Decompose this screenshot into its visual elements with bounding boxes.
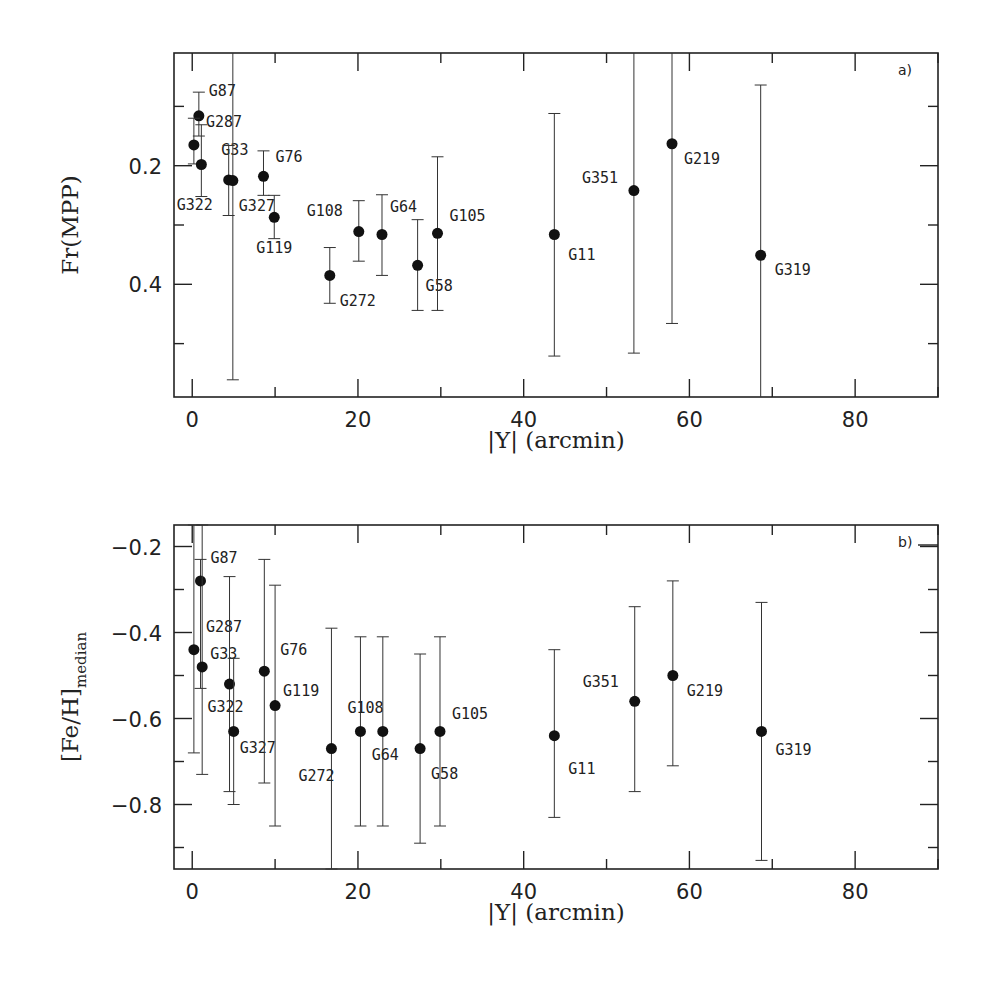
marker <box>376 229 387 240</box>
point-label: G219 <box>684 150 720 168</box>
panel-label: b) <box>898 534 912 550</box>
data-point-g272: G272 <box>298 628 337 869</box>
point-label: G58 <box>431 765 458 783</box>
y-tick-label: −0.6 <box>111 708 162 732</box>
point-label: G272 <box>340 292 376 310</box>
marker <box>549 229 560 240</box>
marker <box>324 270 335 281</box>
point-label: G11 <box>568 246 595 264</box>
point-label: G119 <box>283 682 319 700</box>
panel-b-feh-median: 020406080−0.2−0.4−0.6−0.8|Y| (arcmin)[Fe… <box>57 525 938 926</box>
marker <box>228 726 239 737</box>
point-label: G64 <box>372 746 399 764</box>
data-point-g64: G64 <box>376 195 417 276</box>
point-label: G322 <box>177 196 213 214</box>
marker <box>193 110 204 121</box>
marker <box>756 726 767 737</box>
marker <box>196 159 207 170</box>
x-tick-label: 20 <box>345 880 372 904</box>
y-axis-label-subscript: median <box>72 632 90 688</box>
data-point-g108: G108 <box>307 201 365 261</box>
point-label: G87 <box>209 82 236 100</box>
point-label: G287 <box>206 113 242 131</box>
panel-label: a) <box>898 62 912 78</box>
x-axis-label: |Y| (arcmin) <box>487 427 625 454</box>
x-tick-label: 0 <box>186 408 199 432</box>
point-label: G319 <box>775 261 811 279</box>
point-label: G108 <box>347 699 383 717</box>
point-label: G322 <box>208 698 244 716</box>
data-point-g76: G76 <box>257 148 302 195</box>
panel-a-fr-mpp: 0204060800.20.4|Y| (arcmin)Fr(MPP)a)G87G… <box>57 53 938 454</box>
marker <box>188 644 199 655</box>
marker <box>628 185 639 196</box>
data-point-g105: G105 <box>434 637 488 826</box>
point-label: G33 <box>221 141 248 159</box>
point-label: G327 <box>240 739 276 757</box>
y-axis-label: [Fe/H]median <box>57 632 90 763</box>
marker <box>415 743 426 754</box>
marker <box>377 726 388 737</box>
y-tick-label: −0.4 <box>111 622 162 646</box>
point-label: G105 <box>452 705 488 723</box>
marker <box>755 250 766 261</box>
marker <box>549 730 560 741</box>
data-point-g322: G322 <box>208 577 244 792</box>
data-point-g119: G119 <box>269 585 319 826</box>
point-label: G11 <box>568 760 595 778</box>
point-label: G119 <box>256 239 292 257</box>
plot-frame <box>174 53 938 397</box>
data-point-g219: G219 <box>666 53 720 323</box>
point-label: G351 <box>583 673 619 691</box>
marker <box>412 260 423 271</box>
point-label: G319 <box>776 741 812 759</box>
marker <box>197 661 208 672</box>
y-tick-label: 0.2 <box>129 155 162 179</box>
marker <box>326 743 337 754</box>
x-tick-label: 60 <box>676 880 703 904</box>
point-label: G105 <box>450 207 486 225</box>
data-point-g319: G319 <box>756 602 812 860</box>
point-label: G272 <box>298 767 334 785</box>
point-label: G219 <box>687 682 723 700</box>
data-point-g58: G58 <box>414 654 458 843</box>
point-label: G64 <box>390 198 417 216</box>
y-tick-label: 0.4 <box>129 273 162 297</box>
marker <box>355 726 366 737</box>
point-label: G76 <box>275 148 302 166</box>
x-axis-label: |Y| (arcmin) <box>487 899 625 926</box>
x-tick-label: 20 <box>345 408 372 432</box>
marker <box>259 666 270 677</box>
point-label: G108 <box>307 202 343 220</box>
marker <box>195 575 206 586</box>
x-tick-label: 80 <box>842 880 869 904</box>
x-tick-label: 60 <box>676 408 703 432</box>
marker <box>434 726 445 737</box>
x-tick-label: 0 <box>186 880 199 904</box>
data-point-g351: G351 <box>582 53 640 353</box>
point-label: G287 <box>206 618 242 636</box>
point-label: G351 <box>582 169 618 187</box>
point-label: G87 <box>211 549 238 567</box>
data-point-g319: G319 <box>755 85 811 397</box>
marker <box>432 228 443 239</box>
marker <box>667 138 678 149</box>
marker <box>353 226 364 237</box>
data-point-g11: G11 <box>548 113 595 356</box>
data-point-g219: G219 <box>667 581 723 766</box>
marker <box>258 171 269 182</box>
point-label: G76 <box>280 641 307 659</box>
y-tick-label: −0.8 <box>111 794 162 818</box>
marker <box>270 700 281 711</box>
figure-two-panel-scatter: 0204060800.20.4|Y| (arcmin)Fr(MPP)a)G87G… <box>0 0 985 995</box>
x-tick-label: 80 <box>842 408 869 432</box>
marker <box>188 139 199 150</box>
data-point-g33: G33 <box>195 125 248 197</box>
point-label: G58 <box>426 277 453 295</box>
marker <box>227 175 238 186</box>
marker <box>269 212 280 223</box>
point-label: G327 <box>239 197 275 215</box>
data-point-g272: G272 <box>324 248 376 311</box>
y-axis-label: Fr(MPP) <box>57 175 83 274</box>
data-point-g64: G64 <box>372 637 399 826</box>
